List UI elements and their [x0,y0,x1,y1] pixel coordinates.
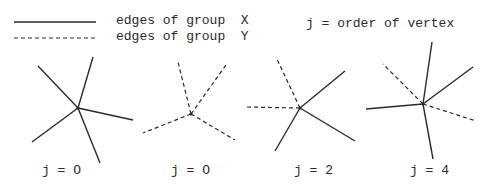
star-label-3: j = 2 [294,164,333,178]
vertex-star-4 [366,42,476,159]
group-x-edge [423,42,432,104]
vertex-stars [32,42,476,163]
group-x-edge [38,66,78,108]
vertex-point [421,102,424,105]
group-x-edge [78,57,93,108]
group-x-edge [423,67,473,104]
vertex-star-2 [143,62,235,140]
legend-solid-label: edges of group X [116,14,249,28]
group-y-edge [246,107,300,108]
group-y-edge [191,65,226,114]
group-x-edge [78,108,133,120]
group-y-edge [276,57,300,108]
group-x-edge [78,108,100,163]
legend-dashed-label: edges of group Y [116,30,249,44]
vertex-star-3 [246,57,355,151]
group-y-edge [383,64,423,104]
vertex-order-note: j = order of vertex [306,17,454,31]
group-x-edge [366,104,423,109]
group-y-edge [178,62,191,114]
group-x-edge [423,104,433,159]
group-x-edge [32,108,78,142]
star-label-2: j = O [171,164,210,178]
group-x-edge [300,108,355,141]
star-label-1: j = O [42,164,81,178]
vertex-point [298,106,301,109]
group-x-edge [275,108,300,151]
vertex-star-1 [32,57,133,163]
group-x-edge [300,71,345,108]
vertex-point [76,106,79,109]
vertex-point [189,112,192,115]
group-y-edge [423,104,476,121]
group-y-edge [143,114,191,133]
star-label-4: j = 4 [410,164,449,178]
group-y-edge [191,114,235,140]
